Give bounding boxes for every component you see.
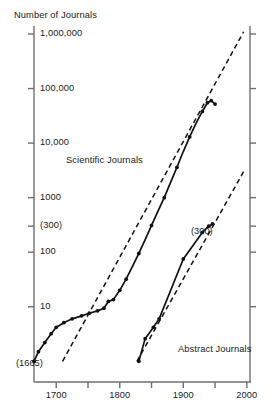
data-point-scientific-1850 bbox=[150, 223, 154, 227]
data-point-scientific-1725 bbox=[70, 317, 74, 321]
data-point-scientific-1810 bbox=[124, 277, 128, 281]
data-point-scientific-1950 bbox=[213, 102, 217, 106]
data-point-abstract-1900 bbox=[181, 257, 185, 261]
data-point-scientific-1765 bbox=[96, 309, 100, 313]
y-tick-label-1000000: 1,000,000 bbox=[40, 28, 82, 38]
data-point-abstract-1830 bbox=[137, 359, 141, 363]
data-point-scientific-1870 bbox=[162, 196, 166, 200]
data-point-scientific-1740 bbox=[80, 314, 84, 318]
data-point-scientific-1775 bbox=[102, 306, 106, 310]
data-point-abstract-1840 bbox=[143, 337, 147, 341]
data-point-scientific-1890 bbox=[175, 165, 179, 169]
data-point-scientific-1692 bbox=[49, 332, 53, 336]
data-point-scientific-1752 bbox=[87, 311, 91, 315]
annotation-300: (300) bbox=[191, 226, 213, 236]
data-point-scientific-1682 bbox=[43, 341, 47, 345]
y-tick-label-1000: 1000 bbox=[40, 192, 61, 202]
series-label-scientific-journals: Scientific Journals bbox=[66, 155, 143, 165]
data-point-scientific-1938 bbox=[206, 101, 210, 105]
data-point-scientific-1790 bbox=[112, 298, 116, 302]
series-label-abstract-journals: Abstract Journals bbox=[178, 344, 252, 354]
data-point-scientific-1700 bbox=[54, 325, 58, 329]
data-point-scientific-1672 bbox=[37, 350, 41, 354]
x-tick-label-1700: 1700 bbox=[36, 390, 76, 400]
x-tick-label-2000: 2000 bbox=[227, 390, 267, 400]
trend-line-abstract bbox=[137, 172, 244, 362]
x-tick-label-1900: 1900 bbox=[163, 390, 203, 400]
data-point-scientific-1830 bbox=[137, 251, 141, 255]
data-point-scientific-1910 bbox=[188, 135, 192, 139]
data-point-scientific-1712 bbox=[62, 321, 66, 325]
data-point-abstract-1862 bbox=[157, 317, 161, 321]
y-tick-label-100000: 100,000 bbox=[40, 83, 74, 93]
y-tick-label-10000: 10,000 bbox=[40, 137, 69, 147]
y-tick-label-300: (300) bbox=[40, 220, 62, 230]
data-point-scientific-1800 bbox=[118, 288, 122, 292]
annotation-1665: (1665) bbox=[16, 358, 43, 368]
data-point-abstract-1853 bbox=[152, 325, 156, 329]
y-tick-label-100: 100 bbox=[40, 246, 56, 256]
journals-growth-chart: Number of Journals 1,000,000100,00010,00… bbox=[0, 0, 275, 405]
x-tick-label-1800: 1800 bbox=[100, 390, 140, 400]
data-point-scientific-1944 bbox=[209, 99, 213, 103]
data-point-scientific-1930 bbox=[200, 110, 204, 114]
data-point-scientific-1782 bbox=[106, 300, 110, 304]
y-tick-label-10: 10 bbox=[40, 301, 51, 311]
